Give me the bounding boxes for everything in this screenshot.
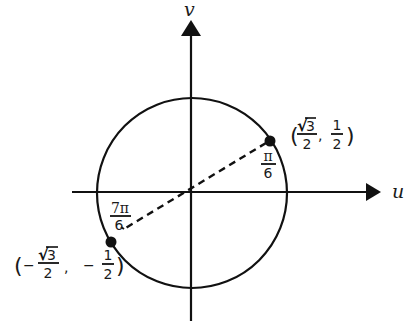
v-axis-label: v	[184, 0, 195, 20]
open-paren: (	[14, 253, 23, 278]
angle-denominator: 6	[264, 165, 273, 181]
unit-circle-diagram: u v π 6 7π 6 ( √ 3 2 , 1 2 )	[0, 0, 415, 321]
point-7pi-over-6-marker	[106, 237, 117, 248]
u-axis: u	[72, 180, 404, 202]
point-pi-over-6-marker	[265, 136, 276, 147]
y-denominator: 2	[104, 266, 113, 282]
angle-numerator: 7π	[111, 200, 129, 216]
close-paren: )	[116, 253, 125, 278]
coordinate-label-pi-over-6: ( √ 3 2 , 1 2 )	[290, 116, 355, 152]
y-numerator: 1	[104, 247, 113, 263]
coordinate-label-7pi-over-6: ( − √ 3 2 , − 1 2 )	[14, 245, 125, 282]
radicand: 3	[47, 247, 56, 263]
x-sign: −	[23, 257, 35, 273]
separator: ,	[318, 127, 322, 143]
separator: ,	[64, 259, 68, 275]
radicand: 3	[306, 118, 315, 134]
angle-numerator: π	[263, 148, 272, 164]
x-denominator: 2	[303, 136, 312, 152]
y-numerator: 1	[333, 117, 342, 133]
dashed-diameter	[124, 143, 266, 229]
y-sign: −	[83, 257, 95, 273]
x-denominator: 2	[44, 265, 53, 281]
u-axis-label: u	[392, 180, 404, 202]
angle-denominator: 6	[115, 217, 124, 233]
v-axis: v	[181, 0, 201, 321]
v-axis-arrow-icon	[181, 20, 201, 36]
u-axis-arrow-icon	[366, 183, 381, 201]
y-denominator: 2	[333, 136, 342, 152]
angle-label-pi-over-6: π 6	[261, 148, 276, 181]
close-paren: )	[346, 123, 355, 148]
